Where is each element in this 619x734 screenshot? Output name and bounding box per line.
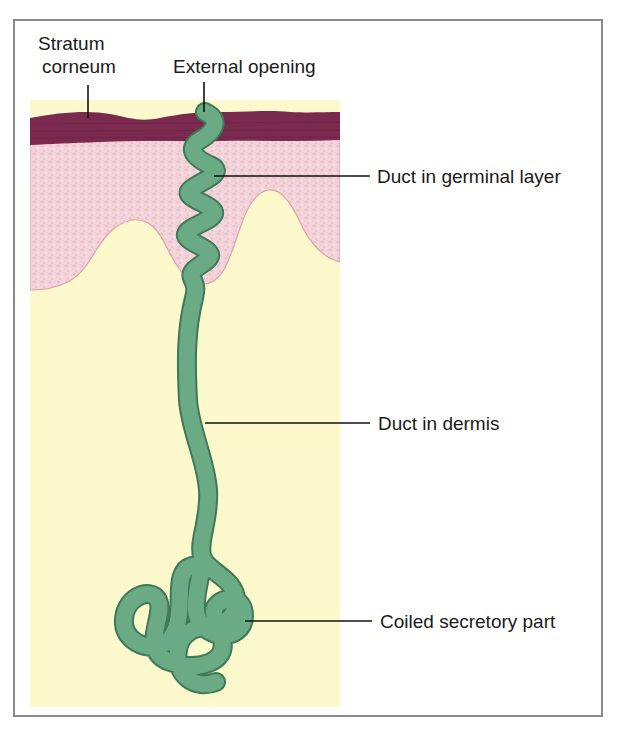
- label-stratum-corneum-line2: corneum: [42, 56, 116, 77]
- label-external-opening: External opening: [173, 56, 316, 77]
- label-coiled-secretory: Coiled secretory part: [380, 611, 556, 632]
- stratum-corneum-layer: [30, 111, 340, 145]
- label-duct-dermis: Duct in dermis: [378, 413, 499, 434]
- label-stratum-corneum-line1: Stratum: [38, 33, 105, 54]
- sweat-gland-diagram: Stratum corneum External opening Duct in…: [0, 0, 619, 734]
- label-duct-germinal: Duct in germinal layer: [377, 166, 561, 187]
